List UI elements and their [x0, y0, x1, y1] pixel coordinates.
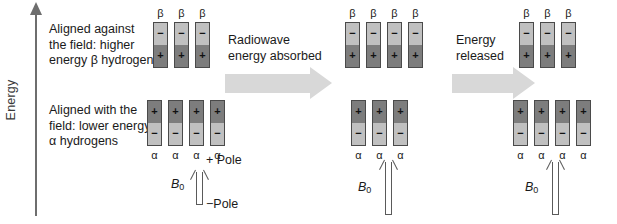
- magnet-bar-tag: β: [540, 7, 555, 19]
- magnet-bar-cell: β−+: [519, 22, 534, 68]
- block-arrow-shaft: [452, 74, 514, 93]
- magnet-bar-tag: α: [576, 149, 591, 161]
- relaxed-state-alpha-bars: +−α+−α+−α+−α: [513, 100, 591, 146]
- magnet-pole-sign: +: [538, 106, 544, 117]
- magnet-bar-top-half: +: [577, 101, 590, 123]
- arrow-line-right: [391, 162, 392, 214]
- magnet-pole-sign: −: [370, 28, 376, 39]
- magnet-pole-sign: +: [157, 50, 163, 61]
- magnet-bar-top-half: +: [190, 101, 203, 123]
- magnet-pole-sign: −: [151, 128, 157, 139]
- magnet-pole-sign: +: [517, 106, 523, 117]
- magnet-bar-bottom-half: +: [175, 45, 188, 67]
- magnet-bar-cell: +−α: [555, 100, 570, 146]
- magnet-bar: +−: [168, 100, 183, 146]
- magnet-bar-top-half: −: [562, 23, 575, 45]
- magnet-bar-top-half: −: [388, 23, 401, 45]
- magnet-bar-top-half: +: [394, 101, 407, 123]
- magnet-bar-cell: +−α: [576, 100, 591, 146]
- arrow-tip-right: [392, 160, 398, 170]
- magnet-bar-top-half: −: [346, 23, 359, 45]
- magnet-bar-bottom-half: −: [148, 123, 161, 145]
- magnet-bar-top-half: −: [196, 23, 209, 45]
- magnet-bar: −+: [195, 22, 210, 68]
- b0-subscript: 0: [179, 182, 184, 192]
- magnet-bar-bottom-half: −: [190, 123, 203, 145]
- magnet-bar-top-half: +: [148, 101, 161, 123]
- magnet-bar-cell: β−+: [153, 22, 168, 68]
- magnet-bar-bottom-half: +: [520, 45, 533, 67]
- excited-state-alpha-bars: +−α+−α+−α: [351, 100, 408, 146]
- magnet-bar-bottom-half: −: [394, 123, 407, 145]
- magnet-pole-sign: −: [517, 128, 523, 139]
- initial-state-alpha-bars: +−α+−α+−α+−α: [147, 100, 225, 146]
- magnet-pole-sign: +: [523, 50, 529, 61]
- magnet-pole-sign: +: [172, 106, 178, 117]
- block-arrow-released: [452, 67, 534, 100]
- magnet-bar: −+: [345, 22, 360, 68]
- b0-subscript: 0: [366, 185, 371, 195]
- magnet-pole-sign: −: [193, 128, 199, 139]
- magnet-bar-cell: +−α: [513, 100, 528, 146]
- magnet-bar: +−: [189, 100, 204, 146]
- magnet-pole-sign: −: [199, 28, 205, 39]
- magnet-bar-cell: +−α: [210, 100, 225, 146]
- magnet-bar: −+: [408, 22, 423, 68]
- magnet-bar-cell: +−α: [168, 100, 183, 146]
- magnet-bar-tag: β: [153, 7, 168, 19]
- magnet-pole-sign: −: [538, 128, 544, 139]
- magnet-bar: +−: [372, 100, 387, 146]
- arrow-tip-right: [203, 170, 209, 180]
- magnet-bar-top-half: +: [535, 101, 548, 123]
- magnet-pole-sign: −: [178, 28, 184, 39]
- magnet-pole-sign: −: [412, 28, 418, 39]
- magnet-pole-sign: −: [157, 28, 163, 39]
- magnet-bar: −+: [387, 22, 402, 68]
- magnet-bar: −+: [153, 22, 168, 68]
- block-arrow-head: [310, 67, 332, 99]
- magnet-pole-sign: −: [172, 128, 178, 139]
- magnet-bar-top-half: +: [556, 101, 569, 123]
- magnet-bar-bottom-half: +: [409, 45, 422, 67]
- b0-label: B0: [525, 180, 538, 194]
- magnet-pole-sign: +: [199, 50, 205, 61]
- magnet-pole-sign: +: [193, 106, 199, 117]
- arrow-line-right: [202, 172, 203, 204]
- magnet-bar-tag: α: [189, 149, 204, 161]
- magnet-bar-bottom-half: −: [373, 123, 386, 145]
- magnet-bar-cell: β−+: [195, 22, 210, 68]
- magnet-pole-sign: −: [580, 128, 586, 139]
- magnet-bar: +−: [534, 100, 549, 146]
- magnet-bar-top-half: −: [541, 23, 554, 45]
- magnet-bar-top-half: −: [175, 23, 188, 45]
- magnet-pole-sign: +: [355, 106, 361, 117]
- magnet-bar-top-half: −: [154, 23, 167, 45]
- magnet-bar-tag: α: [555, 149, 570, 161]
- magnet-bar-top-half: +: [169, 101, 182, 123]
- magnet-bar: −+: [174, 22, 189, 68]
- energy-axis-line: [35, 8, 37, 216]
- magnet-bar-tag: β: [519, 7, 534, 19]
- plus-pole-label: + Pole: [206, 153, 242, 167]
- magnet-bar: +−: [555, 100, 570, 146]
- magnet-pole-sign: +: [559, 106, 565, 117]
- arrow-line-left: [385, 162, 386, 214]
- magnet-bar-bottom-half: −: [577, 123, 590, 145]
- nmr-energy-diagram: Energy Aligned against the field: higher…: [0, 0, 617, 224]
- magnet-bar-top-half: +: [373, 101, 386, 123]
- magnet-pole-sign: +: [580, 106, 586, 117]
- minus-pole-label: −Pole: [206, 197, 238, 211]
- magnet-pole-sign: +: [178, 50, 184, 61]
- excited-state-beta-bars: β−+β−+β−+β−+: [345, 22, 423, 68]
- magnet-bar-bottom-half: −: [514, 123, 527, 145]
- magnet-bar: +−: [351, 100, 366, 146]
- block-arrow-shaft: [225, 74, 311, 93]
- magnet-pole-sign: −: [523, 28, 529, 39]
- magnet-bar-tag: β: [561, 7, 576, 19]
- magnet-bar-top-half: −: [520, 23, 533, 45]
- relaxed-state-beta-bars: β−+β−+β−+: [519, 22, 576, 68]
- magnet-bar-cell: +−α: [534, 100, 549, 146]
- magnet-bar-bottom-half: −: [211, 123, 224, 145]
- magnet-bar-tag: β: [195, 7, 210, 19]
- magnet-pole-sign: +: [376, 106, 382, 117]
